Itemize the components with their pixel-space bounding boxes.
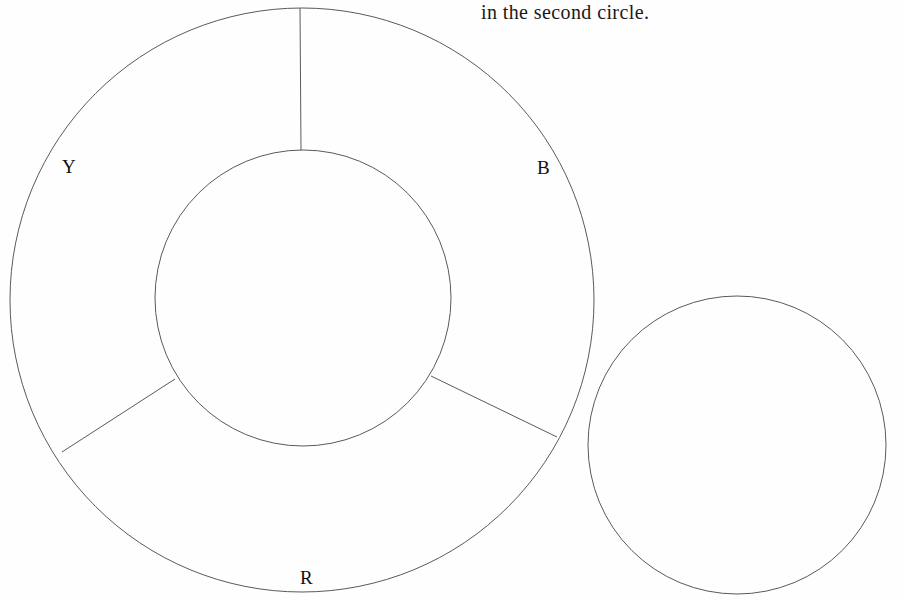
inner-circle-shape <box>155 150 451 446</box>
spoke-lower-left-shape <box>62 379 175 452</box>
page-canvas: in the second circle. Y B R <box>0 0 903 601</box>
outer-circle-shape <box>10 8 594 592</box>
sector-label-y: Y <box>62 157 76 176</box>
second-circle-shape <box>588 296 886 594</box>
spoke-lower-right-shape <box>431 376 557 437</box>
caption-line: in the second circle. <box>481 2 649 22</box>
circle-diagram <box>0 0 903 601</box>
sector-label-b: B <box>537 158 550 177</box>
spoke-top-shape <box>300 8 301 150</box>
sector-label-r: R <box>300 568 313 587</box>
